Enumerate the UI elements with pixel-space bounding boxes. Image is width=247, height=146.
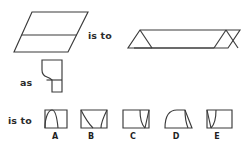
option-C-right-wedge-left-edge [140, 110, 145, 128]
option-E-shape[interactable] [205, 108, 234, 130]
option-E-left-wedge-right-edge [211, 110, 216, 128]
visual-analogy-puzzle: is to as is to A B C D [0, 0, 247, 146]
option-D-rounded-outline [165, 110, 192, 128]
option-C-shape[interactable] [121, 108, 151, 130]
option-label-D: D [171, 133, 181, 141]
connector-as: as [20, 78, 32, 88]
option-label-A: A [50, 133, 60, 141]
option-E-left-wedge-left-edge [207, 110, 211, 128]
option-B-left-concave-sweep [81, 110, 93, 128]
figure-flattened-parallelogram-with-end-triangles [126, 27, 242, 51]
option-B-right-concave-sweep [101, 110, 107, 128]
connector-is-to-second: is to [8, 116, 32, 126]
option-label-C: C [128, 133, 138, 141]
option-D-shape[interactable] [163, 108, 194, 130]
figure-parallelogram-with-divider [12, 10, 90, 54]
square-with-foot-outline [42, 60, 62, 92]
option-C-right-wedge-right-edge [145, 110, 149, 128]
left-triangle-edge [140, 30, 152, 48]
parallelogram-outline [14, 12, 88, 52]
flattened-parallelogram-outline [128, 30, 240, 48]
option-A-shape[interactable] [43, 108, 69, 130]
option-A-left-arch-curve [45, 110, 58, 128]
right-triangle-edge [214, 30, 226, 48]
option-label-B: B [86, 133, 96, 141]
option-B-shape[interactable] [79, 108, 109, 130]
right-triangle-top-divider [226, 30, 238, 48]
option-label-E: E [212, 133, 222, 141]
connector-is-to-first: is to [88, 31, 112, 41]
figure-square-with-tapered-curved-foot [39, 58, 65, 94]
